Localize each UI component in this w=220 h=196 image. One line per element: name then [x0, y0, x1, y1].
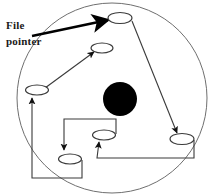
disk-spindle-hub [103, 82, 137, 116]
figure-container: File pointer [0, 0, 220, 196]
link-block-3-to-block-2 [45, 52, 94, 88]
pointer-arrow-to-block-1 [32, 20, 108, 36]
disk-block-5 [59, 154, 82, 164]
file-pointer-label-line1: File [6, 19, 25, 31]
disk-block-4 [93, 130, 116, 140]
link-block-1-to-block-6 [132, 21, 177, 133]
disk-block-2 [91, 43, 113, 53]
file-pointer-label-line2: pointer [6, 35, 42, 47]
link-block-5-to-block-3 [32, 98, 82, 178]
disk-block-6 [170, 134, 194, 145]
disk-block-3 [26, 85, 49, 95]
disk-block-1 [108, 13, 132, 24]
linked-allocation-diagram: File pointer [0, 0, 220, 196]
